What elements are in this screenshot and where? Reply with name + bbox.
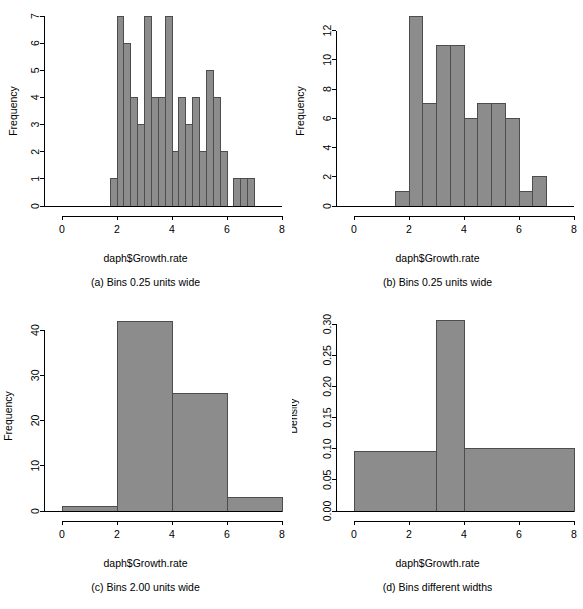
panel-a: 0246801234567Frequency daph$Growth.rate … bbox=[0, 0, 291, 304]
histogram-bar bbox=[151, 97, 158, 206]
panel-a-plot: 0246801234567Frequency bbox=[0, 0, 291, 246]
x-tick-label: 0 bbox=[351, 223, 357, 235]
y-tick-label: 20 bbox=[29, 415, 41, 427]
y-tick-label: 0.15 bbox=[321, 407, 333, 428]
histogram-bar bbox=[519, 191, 533, 206]
x-tick-label: 8 bbox=[571, 528, 577, 540]
panel-d-xlabel: daph$Growth.rate bbox=[292, 557, 583, 569]
y-tick-label: 0 bbox=[29, 203, 41, 209]
x-tick-label: 2 bbox=[114, 528, 120, 540]
histogram-bar bbox=[450, 45, 464, 206]
panel-c-caption: (c) Bins 2.00 units wide bbox=[0, 581, 291, 593]
x-tick-label: 8 bbox=[279, 528, 285, 540]
x-tick-label: 6 bbox=[516, 528, 522, 540]
x-tick-label: 2 bbox=[406, 223, 412, 235]
y-axis-title: Density bbox=[292, 398, 299, 434]
y-tick-label: 4 bbox=[321, 144, 333, 150]
panel-d-caption: (d) Bins different widths bbox=[292, 581, 583, 593]
histogram-bar bbox=[193, 97, 200, 206]
y-tick-label: 0.00 bbox=[321, 501, 333, 522]
y-tick-label: 0.30 bbox=[321, 314, 333, 335]
x-tick-label: 4 bbox=[461, 528, 467, 540]
y-tick-label: 10 bbox=[29, 460, 41, 472]
y-tick-label: 0.25 bbox=[321, 345, 333, 366]
histogram-bar bbox=[505, 118, 519, 206]
histogram-bar bbox=[492, 104, 506, 206]
histogram-bar bbox=[423, 104, 437, 206]
panel-d: 024680.000.050.100.150.200.250.30Density… bbox=[292, 305, 583, 609]
histogram-bar bbox=[110, 179, 117, 206]
y-tick-label: 10 bbox=[321, 54, 333, 66]
panel-d-plot: 024680.000.050.100.150.200.250.30Density bbox=[292, 305, 583, 551]
y-axis-title: Frequency bbox=[294, 85, 306, 135]
y-axis-title: Frequency bbox=[2, 390, 14, 440]
panel-b-plot: 02468024681012Frequency bbox=[292, 0, 583, 246]
histogram-bar bbox=[179, 97, 186, 206]
x-tick-label: 0 bbox=[59, 528, 65, 540]
x-tick-label: 4 bbox=[169, 223, 175, 235]
histogram-bar bbox=[124, 43, 131, 206]
panel-b: 02468024681012Frequency daph$Growth.rate… bbox=[292, 0, 583, 304]
panel-c-plot: 02468010203040Frequency bbox=[0, 305, 291, 551]
panel-a-svg: 0246801234567Frequency bbox=[0, 0, 291, 246]
histogram-bar bbox=[241, 179, 248, 206]
histogram-bar bbox=[158, 97, 165, 206]
histogram-bar bbox=[117, 321, 172, 511]
y-tick-label: 6 bbox=[29, 40, 41, 46]
histogram-bar bbox=[172, 152, 179, 206]
histogram-bar bbox=[395, 191, 409, 206]
histogram-bar bbox=[131, 97, 138, 206]
y-tick-label: 7 bbox=[29, 13, 41, 19]
panel-c-svg: 02468010203040Frequency bbox=[0, 305, 291, 551]
histogram-bar bbox=[464, 449, 574, 511]
x-tick-label: 2 bbox=[406, 528, 412, 540]
histogram-bar bbox=[354, 451, 437, 511]
y-tick-label: 2 bbox=[29, 149, 41, 155]
histogram-bar bbox=[248, 179, 255, 206]
histogram-bar bbox=[464, 118, 478, 206]
histogram-bar bbox=[213, 97, 220, 206]
x-tick-label: 0 bbox=[351, 528, 357, 540]
histogram-bar bbox=[234, 179, 241, 206]
panel-b-xlabel: daph$Growth.rate bbox=[292, 252, 583, 264]
y-tick-label: 0.20 bbox=[321, 376, 333, 397]
x-tick-label: 6 bbox=[516, 223, 522, 235]
histogram-bar bbox=[62, 506, 117, 511]
y-axis-title: Frequency bbox=[7, 85, 19, 135]
histogram-bar bbox=[186, 125, 193, 206]
histogram-bar bbox=[533, 177, 547, 206]
histogram-bar bbox=[220, 152, 227, 206]
panel-a-caption: (a) Bins 0.25 units wide bbox=[0, 276, 291, 288]
histogram-bar bbox=[117, 16, 124, 206]
panel-c-xlabel: daph$Growth.rate bbox=[0, 557, 291, 569]
y-tick-label: 6 bbox=[321, 115, 333, 121]
panel-b-svg: 02468024681012Frequency bbox=[292, 0, 583, 246]
histogram-bar bbox=[206, 70, 213, 206]
histogram-bar bbox=[200, 152, 207, 206]
x-tick-label: 8 bbox=[279, 223, 285, 235]
histogram-figure: 0246801234567Frequency daph$Growth.rate … bbox=[0, 0, 583, 609]
y-tick-label: 40 bbox=[29, 324, 41, 336]
histogram-bar bbox=[409, 16, 423, 206]
y-tick-label: 2 bbox=[321, 174, 333, 180]
panel-c: 02468010203040Frequency daph$Growth.rate… bbox=[0, 305, 291, 609]
histogram-bar bbox=[138, 125, 145, 206]
x-tick-label: 2 bbox=[114, 223, 120, 235]
x-tick-label: 6 bbox=[224, 223, 230, 235]
histogram-bar bbox=[172, 393, 227, 511]
y-tick-label: 0 bbox=[321, 203, 333, 209]
y-tick-label: 0.10 bbox=[321, 438, 333, 459]
histogram-bar bbox=[437, 321, 465, 511]
x-tick-label: 8 bbox=[571, 223, 577, 235]
x-tick-label: 4 bbox=[169, 528, 175, 540]
histogram-bar bbox=[165, 16, 172, 206]
histogram-bar bbox=[437, 45, 451, 206]
y-tick-label: 3 bbox=[29, 121, 41, 127]
histogram-bar bbox=[478, 104, 492, 206]
histogram-bar bbox=[227, 497, 282, 511]
x-tick-label: 6 bbox=[224, 528, 230, 540]
histogram-bar bbox=[145, 16, 152, 206]
y-tick-label: 12 bbox=[321, 25, 333, 37]
y-tick-label: 30 bbox=[29, 369, 41, 381]
x-tick-label: 0 bbox=[59, 223, 65, 235]
